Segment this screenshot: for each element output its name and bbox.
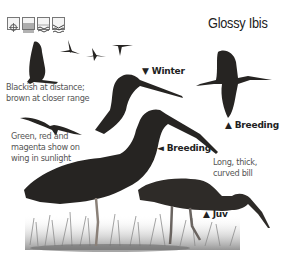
label-text: Winter bbox=[152, 66, 185, 76]
flying-flock bbox=[60, 40, 133, 61]
arrow-up-icon: ▲ bbox=[203, 209, 210, 219]
note-line: curved bill bbox=[213, 168, 257, 179]
arrow-up-icon: ▲ bbox=[225, 120, 232, 130]
note-distance: Blackish at distance; brown at closer ra… bbox=[6, 82, 89, 104]
flying-breeding-ibis bbox=[196, 50, 272, 118]
note-line: Long, thick, bbox=[213, 157, 257, 168]
note-bill: Long, thick, curved bill bbox=[213, 157, 257, 179]
arrow-down-icon: ▼ bbox=[142, 66, 149, 76]
note-line: Blackish at distance; bbox=[6, 82, 89, 93]
note-line: wing in sunlight bbox=[11, 153, 80, 164]
note-wing: Green, red and magenta show on wing in s… bbox=[11, 131, 80, 164]
label-winter: ▼ Winter bbox=[142, 66, 185, 76]
label-text: Breeding bbox=[235, 120, 279, 130]
label-breeding-flight: ▲ Breeding bbox=[225, 120, 279, 130]
note-line: Green, red and bbox=[11, 131, 80, 142]
arrow-left-icon: ◄ bbox=[157, 143, 164, 153]
note-line: magenta show on bbox=[11, 142, 80, 153]
distant-ibis-silhouette bbox=[27, 42, 58, 84]
label-text: Breeding bbox=[167, 143, 211, 153]
note-line: brown at closer range bbox=[6, 93, 89, 104]
label-text: Juv bbox=[213, 209, 228, 219]
label-juvenile: ▲ Juv bbox=[203, 209, 228, 219]
label-breeding-standing: ◄ Breeding bbox=[157, 143, 211, 153]
